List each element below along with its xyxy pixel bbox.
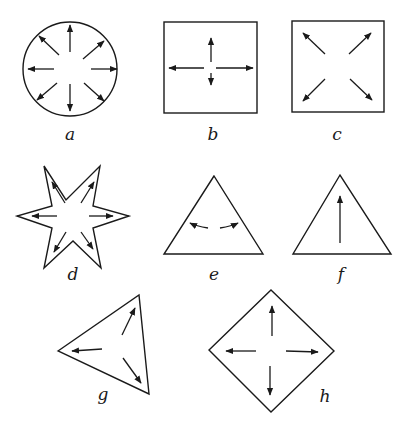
figure-d: d	[17, 166, 129, 284]
figure-a: a	[23, 22, 117, 144]
cross-arrows-icon	[169, 38, 253, 85]
figure-g: g	[58, 295, 149, 404]
figure-canvas: a b c d	[0, 0, 405, 430]
triangle-shape	[293, 175, 391, 254]
figure-e: e	[164, 176, 263, 284]
figure-label: f	[336, 264, 347, 284]
figure-label: g	[98, 384, 109, 404]
triangle-shape	[58, 295, 149, 394]
star-shape	[17, 166, 129, 268]
figure-label: e	[209, 264, 219, 284]
radial-arrows-icon	[28, 25, 117, 111]
diagonal-arrows-icon	[303, 33, 372, 101]
figure-label: b	[208, 124, 219, 144]
figure-label: h	[320, 386, 331, 406]
triangle-shape	[164, 176, 263, 254]
curved-arrows-icon	[190, 223, 238, 228]
figure-label: a	[65, 124, 75, 144]
figure-f: f	[293, 175, 391, 284]
figure-h: h	[209, 290, 334, 412]
vertex-arrows-icon	[72, 308, 141, 383]
figure-label: c	[332, 124, 342, 144]
figure-c: c	[292, 21, 384, 144]
figure-b: b	[164, 22, 257, 144]
figure-label: d	[68, 264, 79, 284]
